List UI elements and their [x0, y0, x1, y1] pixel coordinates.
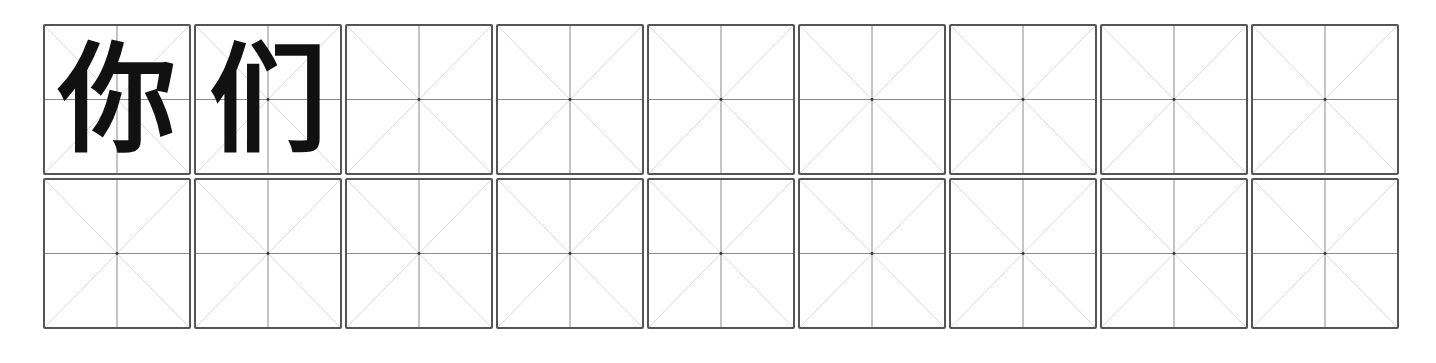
practice-character — [1253, 180, 1397, 327]
writing-cell[interactable] — [949, 178, 1097, 329]
writing-cell[interactable] — [647, 178, 795, 329]
writing-cell[interactable] — [1251, 178, 1399, 329]
writing-cell[interactable] — [949, 24, 1097, 175]
practice-character — [1102, 180, 1246, 327]
writing-cell[interactable] — [1100, 24, 1248, 175]
practice-grid-sheet: 你们 — [43, 24, 1405, 332]
practice-character — [800, 180, 944, 327]
writing-cell[interactable] — [43, 178, 191, 329]
writing-cell[interactable] — [647, 24, 795, 175]
writing-cell[interactable] — [1100, 178, 1248, 329]
writing-cell[interactable] — [345, 24, 493, 175]
writing-cell[interactable]: 你 — [43, 24, 191, 175]
practice-character: 们 — [196, 26, 340, 173]
writing-cell[interactable] — [496, 178, 644, 329]
practice-character — [1102, 26, 1246, 173]
practice-character — [951, 180, 1095, 327]
practice-character — [951, 26, 1095, 173]
practice-character — [196, 180, 340, 327]
writing-cell[interactable] — [798, 24, 946, 175]
practice-character — [649, 26, 793, 173]
practice-character — [649, 180, 793, 327]
practice-character: 你 — [45, 26, 189, 173]
practice-character — [498, 26, 642, 173]
practice-character — [347, 26, 491, 173]
writing-cell[interactable] — [1251, 24, 1399, 175]
grid-row: 你们 — [43, 24, 1405, 175]
practice-character — [800, 26, 944, 173]
grid-row — [43, 178, 1405, 329]
writing-cell[interactable]: 们 — [194, 24, 342, 175]
practice-character — [1253, 26, 1397, 173]
practice-character — [498, 180, 642, 327]
writing-cell[interactable] — [496, 24, 644, 175]
practice-character — [45, 180, 189, 327]
writing-cell[interactable] — [345, 178, 493, 329]
writing-cell[interactable] — [798, 178, 946, 329]
writing-cell[interactable] — [194, 178, 342, 329]
practice-character — [347, 180, 491, 327]
